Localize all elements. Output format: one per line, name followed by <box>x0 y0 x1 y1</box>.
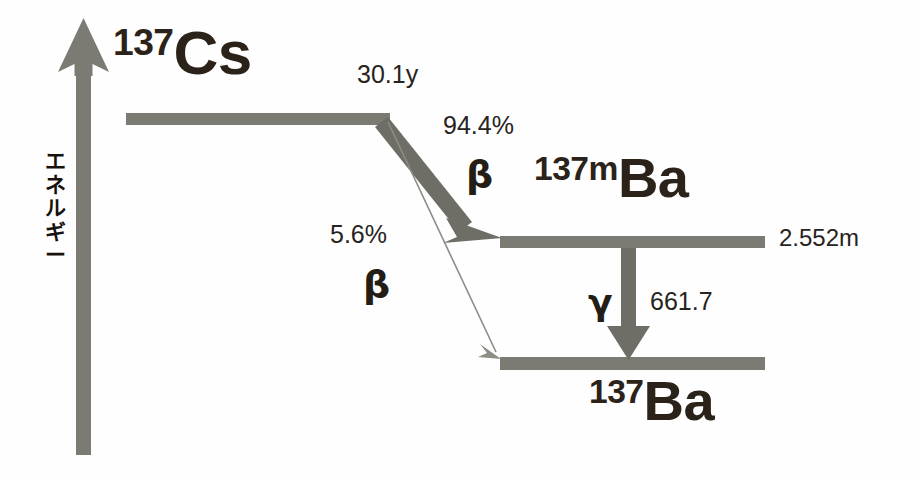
nuclide-mass-ba137: 137 <box>589 373 644 410</box>
nuclide-symbol-cs137: Cs <box>174 18 252 87</box>
nuclide-mass-ba137m: 137m <box>534 150 618 187</box>
energy-axis-char-3: ル <box>40 197 70 221</box>
energy-axis-label: エ ネ ル ギ ー <box>40 150 70 268</box>
nuclide-mass-cs137: 137 <box>113 21 174 63</box>
energy-label-gamma: 661.7 <box>650 289 713 314</box>
level-bar-cs137 <box>126 113 390 125</box>
energy-axis-char-5: ー <box>40 244 70 268</box>
nuclide-label-cs137: 137Cs <box>113 22 252 84</box>
intensity-label-beta-major: 94.4% <box>443 113 514 138</box>
energy-axis-char-1: エ <box>40 150 70 174</box>
transition-arrow-gamma <box>607 248 650 360</box>
halflife-label-cs137: 30.1y <box>357 62 418 87</box>
nuclide-symbol-ba137m: Ba <box>618 146 689 209</box>
intensity-label-beta-minor: 5.6% <box>330 222 387 247</box>
nuclide-label-ba137: 137Ba <box>589 373 714 429</box>
particle-label-beta-minor: β <box>363 265 390 303</box>
level-bar-ba137 <box>500 357 765 370</box>
nuclide-label-ba137m: 137mBa <box>534 150 688 206</box>
particle-label-gamma: γ <box>588 285 613 321</box>
energy-axis-char-4: ギ <box>40 221 70 245</box>
halflife-label-ba137m: 2.552m <box>779 226 859 250</box>
particle-label-beta-major: β <box>466 155 493 193</box>
nuclide-symbol-ba137: Ba <box>644 369 715 432</box>
level-bar-ba137m <box>500 236 765 248</box>
energy-axis-char-2: ネ <box>40 174 70 198</box>
decay-scheme-diagram: エ ネ ル ギ ー 137Cs 137mBa 137Ba 30.1y 2.552… <box>0 0 920 478</box>
